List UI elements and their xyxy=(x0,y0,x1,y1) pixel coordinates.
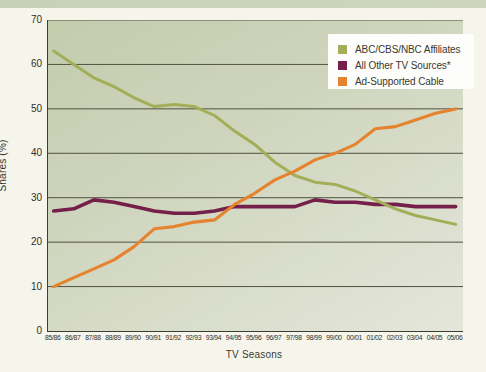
chart-legend: ABC/CBS/NBC Affiliates All Other TV Sour… xyxy=(328,34,474,89)
x-axis-title: TV Seasons xyxy=(204,349,304,360)
x-tick-label: 88/89 xyxy=(102,334,124,341)
y-tick-label: 60 xyxy=(0,57,42,71)
legend-swatch-affiliates-icon xyxy=(338,45,347,54)
x-tick-label: 95/96 xyxy=(243,334,265,341)
y-tick-label: 40 xyxy=(0,146,42,160)
x-tick-label: 89/90 xyxy=(122,334,144,341)
y-tick-label: 0 xyxy=(0,324,42,338)
y-tick-label: 10 xyxy=(0,280,42,294)
legend-label: All Other TV Sources* xyxy=(355,60,451,71)
series-line-1 xyxy=(54,200,456,213)
legend-item: Ad-Supported Cable xyxy=(338,73,474,89)
x-tick-label: 98/99 xyxy=(303,334,325,341)
x-tick-label: 93/94 xyxy=(203,334,225,341)
x-tick-label: 85/86 xyxy=(42,334,64,341)
x-tick-label: 99/00 xyxy=(323,334,345,341)
legend-item: All Other TV Sources* xyxy=(338,57,474,73)
y-tick-label: 50 xyxy=(0,102,42,116)
x-tick-label: 02/03 xyxy=(383,334,405,341)
x-tick-label: 86/87 xyxy=(62,334,84,341)
x-tick-label: 90/91 xyxy=(142,334,164,341)
x-tick-label: 87/88 xyxy=(82,334,104,341)
legend-swatch-other-sources-icon xyxy=(338,61,347,70)
x-tick-label: 01/02 xyxy=(363,334,385,341)
x-tick-label: 94/95 xyxy=(223,334,245,341)
x-tick-label: 96/97 xyxy=(263,334,285,341)
x-tick-label: 03/04 xyxy=(404,334,426,341)
page-top-color-band xyxy=(0,0,486,8)
x-tick-label: 00/01 xyxy=(343,334,365,341)
x-tick-label: 05/06 xyxy=(444,334,466,341)
x-tick-label: 97/98 xyxy=(283,334,305,341)
legend-swatch-cable-icon xyxy=(338,77,347,86)
x-tick-label: 91/92 xyxy=(162,334,184,341)
y-tick-label: 30 xyxy=(0,191,42,205)
legend-item: ABC/CBS/NBC Affiliates xyxy=(338,41,474,57)
x-tick-label: 92/93 xyxy=(182,334,204,341)
x-tick-label: 04/05 xyxy=(424,334,446,341)
legend-label: Ad-Supported Cable xyxy=(355,76,444,87)
legend-label: ABC/CBS/NBC Affiliates xyxy=(355,44,460,55)
chart: Shares (%) 010203040506070 ABC/CBS/NBC A… xyxy=(0,0,486,372)
y-tick-label: 20 xyxy=(0,235,42,249)
y-tick-label: 70 xyxy=(0,13,42,27)
